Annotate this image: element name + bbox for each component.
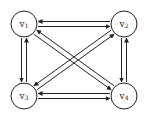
node-v4: v4: [111, 83, 137, 109]
edge-v4-to-v1: [37, 30, 114, 86]
node-v2: v2: [111, 11, 137, 37]
edge-v2-to-v3: [34, 30, 111, 86]
directed-graph: v1 v2 v3 v4: [0, 0, 151, 121]
edge-v3-to-v2: [37, 34, 114, 90]
node-v3: v3: [11, 83, 37, 109]
nodes: v1 v2 v3 v4: [11, 11, 137, 109]
edges: [22, 22, 127, 99]
edge-v1-to-v4: [34, 34, 111, 90]
node-v1: v1: [11, 11, 37, 37]
